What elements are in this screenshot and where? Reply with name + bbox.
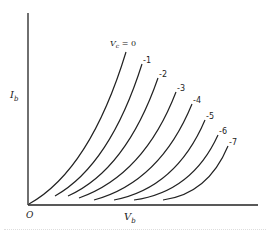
origin-label: O (26, 210, 34, 220)
characteristic-curve (114, 120, 205, 200)
curve-label: -5 (206, 112, 214, 121)
y-axis-label: Ib (9, 89, 19, 103)
curve-label-vc0: Vc = 0 (110, 39, 136, 49)
curve-label: -4 (193, 96, 201, 105)
characteristic-curve (163, 146, 228, 200)
curve-family: -1-2-3-4-5-6-7 (29, 52, 237, 204)
caption-cutoff (4, 229, 266, 233)
plate-characteristics-diagram: Ib Vb O -1-2-3-4-5-6-7 Vc = 0 (0, 0, 269, 238)
curve-label: -7 (229, 138, 237, 147)
characteristic-curve (68, 78, 158, 196)
characteristic-curve (134, 135, 218, 200)
characteristic-curve (79, 92, 176, 198)
curve-label: -1 (143, 56, 151, 65)
x-axis-label: Vb (124, 211, 136, 225)
curve-label: -3 (177, 84, 185, 93)
curve-label: -2 (159, 70, 167, 79)
curve-label: -6 (219, 127, 227, 136)
